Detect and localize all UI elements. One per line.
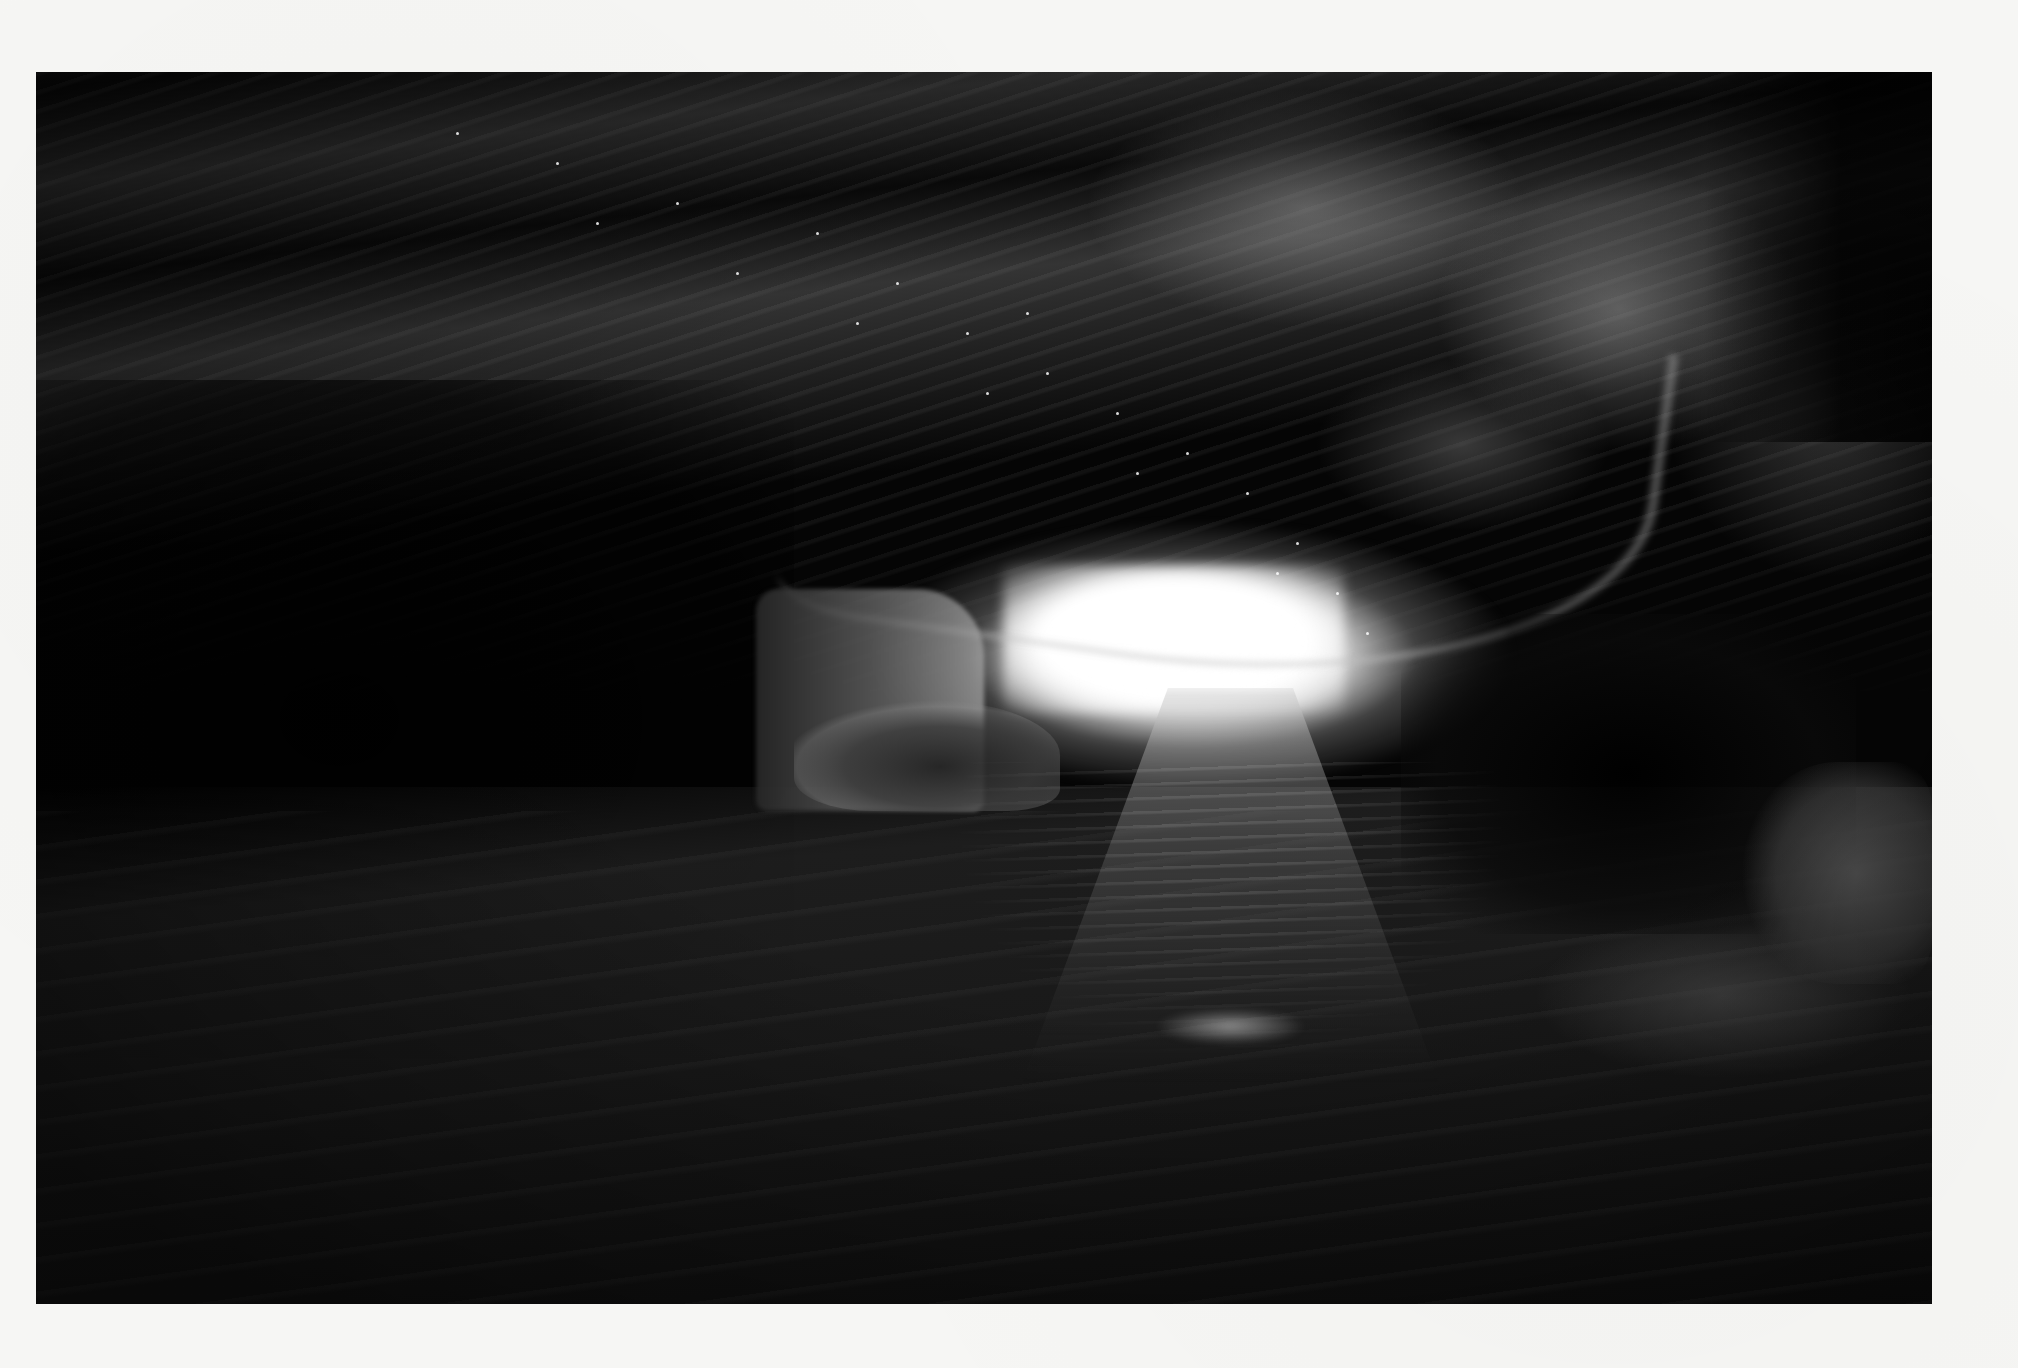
ice-sparkle bbox=[1296, 542, 1299, 545]
ice-sparkle bbox=[896, 282, 899, 285]
ice-sparkle bbox=[1116, 412, 1119, 415]
stream-ripples bbox=[946, 762, 1515, 1070]
ice-sparkle bbox=[1246, 492, 1249, 495]
ice-sparkle bbox=[736, 272, 739, 275]
right-ice-boulder bbox=[1742, 762, 1932, 984]
right-rock-mass bbox=[1401, 614, 1856, 934]
meltwater-stream bbox=[1022, 688, 1439, 1082]
ice-cave-photo bbox=[36, 72, 1932, 1304]
cave-opening-glow bbox=[870, 479, 1515, 799]
ice-sparkle bbox=[676, 202, 679, 205]
right-floor-highlight bbox=[1515, 860, 1932, 1131]
ice-sparkle bbox=[456, 132, 459, 135]
ice-sparkle bbox=[596, 222, 599, 225]
ice-sparkle bbox=[1046, 372, 1049, 375]
vignette bbox=[36, 72, 1932, 1304]
ice-sparkle bbox=[1136, 472, 1139, 475]
cave-floor bbox=[36, 787, 1932, 1304]
ice-sparkle bbox=[856, 322, 859, 325]
left-cave-wall bbox=[36, 380, 794, 1058]
ice-sparkle bbox=[1336, 592, 1339, 595]
upper-right-ice-texture bbox=[889, 72, 1932, 750]
ice-pillar bbox=[756, 589, 984, 811]
floor-strata bbox=[36, 811, 1932, 1304]
ceiling-ice-band bbox=[36, 72, 1932, 822]
ice-sparkle bbox=[556, 162, 559, 165]
ice-sparkle bbox=[1366, 632, 1369, 635]
foreground-ice-chunk bbox=[794, 700, 1059, 811]
ice-sparkle bbox=[816, 232, 819, 235]
ice-sparkle bbox=[966, 332, 969, 335]
ice-sparkle bbox=[1276, 572, 1279, 575]
ice-sparkle bbox=[1186, 452, 1189, 455]
ice-sparkle bbox=[986, 392, 989, 395]
ice-sparkle bbox=[1026, 312, 1029, 315]
cave-opening-core bbox=[1003, 565, 1344, 713]
ceiling-streaks bbox=[36, 72, 1932, 713]
stream-reflection bbox=[1155, 1008, 1307, 1045]
upper-right-shadow bbox=[1704, 72, 1932, 442]
arch-edge bbox=[772, 236, 1679, 728]
